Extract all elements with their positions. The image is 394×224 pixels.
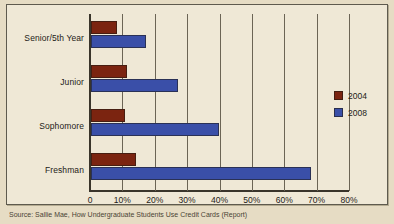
chart-legend: 20042008: [334, 87, 384, 121]
x-tick-label: 30%: [179, 195, 196, 205]
bar-2008: [91, 79, 178, 92]
bar-group: Senior/5th Year: [91, 16, 350, 60]
x-tick-label: 10%: [114, 195, 131, 205]
bar-2008: [91, 123, 219, 136]
page-background: Senior/5th YearJuniorSophomoreFreshman 0…: [0, 0, 394, 224]
legend-label: 2008: [348, 108, 367, 118]
bar-group: Junior: [91, 60, 350, 104]
source-note: Source: Sallie Mae, How Undergraduate St…: [9, 210, 389, 219]
legend-label: 2004: [348, 91, 367, 101]
legend-swatch-icon: [334, 91, 343, 100]
bar-group: Sophomore: [91, 104, 350, 148]
x-tick-label: 70%: [308, 195, 325, 205]
bar-2004: [91, 109, 125, 122]
bar-group: Freshman: [91, 148, 350, 192]
category-label: Junior: [60, 77, 84, 87]
bar-2008: [91, 167, 311, 180]
bar-2004: [91, 21, 117, 34]
x-tick-label: 80%: [340, 195, 357, 205]
bar-2004: [91, 65, 127, 78]
x-tick-label: 0: [88, 195, 93, 205]
bar-2008: [91, 35, 146, 48]
x-tick-label: 50%: [243, 195, 260, 205]
category-label: Sophomore: [39, 121, 84, 131]
chart-frame: Senior/5th YearJuniorSophomoreFreshman 0…: [6, 4, 388, 205]
bar-2004: [91, 153, 136, 166]
category-label: Senior/5th Year: [24, 33, 84, 43]
x-tick-label: 60%: [276, 195, 293, 205]
legend-swatch-icon: [334, 108, 343, 117]
x-tick-label: 20%: [146, 195, 163, 205]
legend-item-2008[interactable]: 2008: [334, 104, 384, 121]
legend-item-2004[interactable]: 2004: [334, 87, 384, 104]
category-label: Freshman: [45, 165, 84, 175]
x-tick-label: 40%: [211, 195, 228, 205]
plot-area: Senior/5th YearJuniorSophomoreFreshman 0…: [7, 5, 389, 206]
